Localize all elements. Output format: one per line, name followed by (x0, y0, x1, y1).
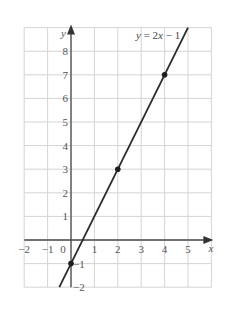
line-graph: x y −2−1012345 −2−112345678 y = 2x − 1 (0, 0, 225, 310)
y-tick-label: 8 (63, 45, 69, 57)
y-axis-arrow-icon (67, 25, 75, 35)
data-point (162, 72, 168, 78)
data-point (68, 261, 74, 267)
x-tick-label: 3 (138, 243, 144, 255)
x-tick-label: 5 (185, 243, 191, 255)
y-tick-label: 2 (63, 187, 69, 199)
equation-rest: − 1 (163, 29, 180, 41)
x-tick-label: −1 (42, 243, 54, 255)
data-point (115, 166, 121, 172)
y-tick-label: 7 (63, 69, 69, 81)
x-tick-labels: −2−1012345 (18, 243, 191, 255)
y-tick-label: −2 (73, 281, 85, 293)
y-tick-label: 4 (63, 140, 69, 152)
x-axis-label: x (207, 242, 213, 254)
x-tick-label: 4 (162, 243, 168, 255)
equation-label: y = 2x − 1 (135, 29, 180, 41)
y-tick-label: 5 (63, 116, 69, 128)
y-tick-label: 3 (63, 163, 69, 175)
y-tick-label: 6 (63, 92, 69, 104)
y-tick-label: 1 (63, 210, 69, 222)
y-tick-label: −1 (73, 258, 85, 270)
equation-eq: = 2 (141, 29, 158, 41)
x-tick-label: 0 (60, 243, 66, 255)
line-y-equals-2x-minus-1 (59, 28, 188, 288)
x-tick-label: 2 (115, 243, 121, 255)
y-axis-label: y (60, 27, 66, 39)
x-tick-label: 1 (92, 243, 98, 255)
x-tick-label: −2 (18, 243, 30, 255)
series-line (59, 28, 188, 288)
